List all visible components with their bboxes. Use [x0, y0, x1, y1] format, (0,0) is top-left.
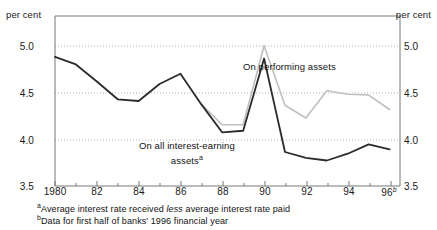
y-tick-left-3-5: 3.5 — [2, 181, 34, 192]
x-tick-1980: 1980 — [35, 186, 75, 197]
x-tick-86: 86 — [161, 186, 201, 197]
series-label-performing-assets: On performing assets — [243, 61, 336, 73]
series-label-performing-text: On performing assets — [243, 61, 336, 72]
chart-figure: per cent per cent 5.0 4.5 4.0 3.5 5.0 4.… — [0, 0, 437, 230]
x-tick-84: 84 — [119, 186, 159, 197]
y-tick-left-5-0: 5.0 — [2, 41, 34, 52]
x-tick-96-superscript: b — [393, 186, 397, 193]
series-line-performing-assets — [201, 46, 389, 125]
y-tick-right-5-0: 5.0 — [404, 41, 436, 52]
series-label-all-line2: assets — [171, 155, 199, 166]
series-label-all-line1: On all interest-earning — [139, 140, 235, 151]
y-tick-right-4-0: 4.0 — [404, 135, 436, 146]
footnote-b: bData for first half of banks' 1996 fina… — [37, 212, 228, 227]
x-tick-92: 92 — [287, 186, 327, 197]
x-tick-88: 88 — [203, 186, 243, 197]
footnote-b-text: Data for first half of banks' 1996 finan… — [41, 216, 228, 226]
y-tick-left-4-5: 4.5 — [2, 88, 34, 99]
series-label-all-superscript: a — [199, 154, 203, 161]
x-tick-90: 90 — [245, 186, 285, 197]
x-tick-94: 94 — [329, 186, 369, 197]
series-label-all-interest-earning-assets: On all interest-earning assetsa — [139, 140, 235, 166]
y-axis-unit-right: per cent — [396, 9, 431, 20]
y-axis-unit-left: per cent — [6, 9, 41, 20]
y-tick-right-4-5: 4.5 — [404, 88, 436, 99]
x-tick-96: 96b — [369, 186, 409, 198]
gridlines — [55, 46, 400, 140]
x-tick-96-label: 96 — [381, 187, 392, 198]
x-tick-82: 82 — [77, 186, 117, 197]
y-tick-left-4-0: 4.0 — [2, 135, 34, 146]
